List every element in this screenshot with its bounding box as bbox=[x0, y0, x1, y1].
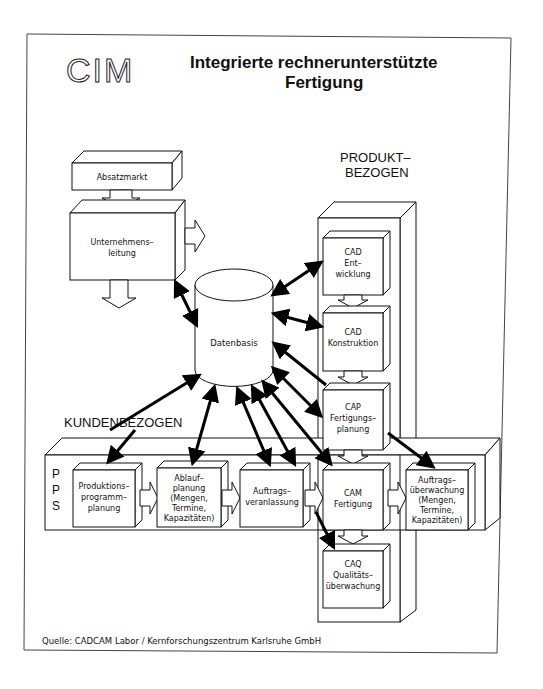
svg-text:Ent–: Ent– bbox=[344, 259, 361, 268]
box-unternehmensleitung: Unternehmens– leitung bbox=[70, 200, 185, 280]
box-cap-fertigungsplanung: CAP Fertigungs– planung bbox=[323, 383, 390, 450]
group-label-product-line2: BEZOGEN bbox=[345, 165, 409, 180]
svg-text:Datenbasis: Datenbasis bbox=[210, 338, 258, 348]
svg-text:Fertigung: Fertigung bbox=[334, 500, 372, 509]
svg-text:CAQ: CAQ bbox=[344, 560, 361, 569]
svg-text:Kapazitäten): Kapazitäten) bbox=[164, 514, 215, 523]
svg-text:Termine,: Termine, bbox=[171, 504, 206, 513]
cim-logo: CIM bbox=[66, 51, 134, 89]
group-label-product-line1: PRODUKT– bbox=[340, 150, 412, 165]
svg-text:Unternehmens–: Unternehmens– bbox=[90, 238, 153, 247]
page-title-line2: Fertigung bbox=[285, 73, 363, 92]
svg-text:programm–: programm– bbox=[81, 493, 127, 502]
svg-text:CAP: CAP bbox=[345, 403, 361, 412]
svg-text:Termine,: Termine, bbox=[419, 506, 454, 515]
box-ablaufplanung: Ablauf– planung (Mengen, Termine, Kapazi… bbox=[157, 461, 228, 527]
box-produktionsprogrammplanung: Produktions– programm– planung bbox=[73, 463, 142, 527]
box-cam-fertigung: CAM Fertigung bbox=[323, 463, 390, 530]
svg-text:Kapazitäten): Kapazitäten) bbox=[412, 516, 463, 525]
box-auftragsveranlassung: Auftrags– veranlassung bbox=[240, 463, 310, 527]
svg-text:Konstruktion: Konstruktion bbox=[328, 339, 378, 348]
svg-text:planung: planung bbox=[88, 504, 121, 513]
page-title-line1: Integrierte rechnerunterstützte bbox=[190, 53, 438, 72]
svg-text:Auftrags–: Auftrags– bbox=[253, 487, 291, 496]
svg-text:Ablauf–: Ablauf– bbox=[174, 474, 204, 483]
svg-text:CAM: CAM bbox=[344, 489, 362, 498]
box-auftragsueberwachung: Auftrags– überwachung (Mengen, Termine, … bbox=[406, 463, 475, 530]
svg-text:Qualitäts–: Qualitäts– bbox=[333, 571, 373, 580]
box-caq-qualitaetsueberwachung: CAQ Qualitäts– überwachung bbox=[323, 544, 390, 608]
svg-text:Absatzmarkt: Absatzmarkt bbox=[97, 173, 148, 182]
svg-text:CAD: CAD bbox=[344, 248, 361, 257]
svg-text:überwachung: überwachung bbox=[410, 486, 465, 495]
svg-text:CAD: CAD bbox=[344, 328, 361, 337]
svg-text:(Mengen,: (Mengen, bbox=[170, 494, 208, 503]
svg-text:Produktions–: Produktions– bbox=[79, 482, 130, 491]
svg-text:überwachung: überwachung bbox=[326, 582, 381, 591]
svg-text:planung: planung bbox=[337, 425, 370, 434]
pps-letter-3: S bbox=[52, 499, 60, 513]
pps-letter-1: P bbox=[52, 467, 60, 481]
source-credit: Quelle: CADCAM Labor / Kernforschungszen… bbox=[42, 636, 321, 646]
svg-text:wicklung: wicklung bbox=[335, 270, 370, 279]
box-cad-entwicklung: CAD Ent– wicklung bbox=[323, 231, 390, 295]
pps-letter-2: P bbox=[52, 483, 60, 497]
box-absatzmarkt: Absatzmarkt bbox=[72, 151, 182, 190]
svg-text:(Mengen,: (Mengen, bbox=[418, 496, 456, 505]
svg-text:Auftrags–: Auftrags– bbox=[418, 476, 456, 485]
svg-text:veranlassung: veranlassung bbox=[245, 498, 299, 507]
svg-text:Fertigungs–: Fertigungs– bbox=[330, 414, 376, 423]
cim-diagram: CIM Integrierte rechnerunterstützte Fert… bbox=[0, 0, 543, 689]
svg-text:leitung: leitung bbox=[108, 249, 136, 258]
svg-text:planung: planung bbox=[173, 484, 206, 493]
box-cad-konstruktion: CAD Konstruktion bbox=[323, 306, 390, 371]
datenbasis-cylinder: Datenbasis bbox=[195, 269, 273, 386]
